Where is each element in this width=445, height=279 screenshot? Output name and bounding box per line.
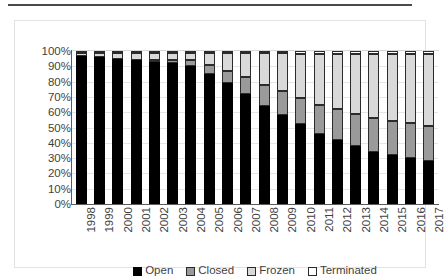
segment-closed-2016: [405, 123, 416, 158]
segment-open-2005: [204, 74, 215, 204]
segment-open-2002: [149, 62, 160, 204]
segment-open-2001: [131, 60, 142, 204]
legend-item-frozen[interactable]: Frozen: [247, 265, 295, 277]
segment-terminated-2014: [368, 51, 379, 54]
legend-item-terminated[interactable]: Terminated: [308, 265, 377, 277]
bar-2012: [332, 51, 343, 204]
x-axis-tick-label: 2011: [324, 207, 336, 232]
segment-open-2003: [167, 63, 178, 204]
x-axis-tick-label: 2001: [141, 207, 153, 233]
y-axis-tick-label: 30%: [48, 153, 71, 165]
x-axis-tick-label: 2008: [269, 207, 281, 233]
segment-frozen-1999: [94, 53, 105, 58]
bar-2002: [149, 51, 160, 204]
frozen-swatch-icon: [247, 267, 256, 276]
segment-closed-2005: [204, 65, 215, 74]
segment-terminated-1998: [76, 51, 87, 53]
x-axis-tick-label: 2010: [306, 207, 318, 233]
x-axis-tick-label: 2009: [287, 207, 299, 233]
x-axis-tick-label: 2015: [397, 207, 409, 233]
segment-closed-2017: [423, 126, 434, 161]
segment-frozen-2016: [405, 54, 416, 123]
segment-frozen-2015: [387, 54, 398, 121]
segment-frozen-2005: [204, 53, 215, 65]
bar-2009: [277, 51, 288, 204]
segment-frozen-2001: [131, 53, 142, 61]
segment-closed-2003: [167, 60, 178, 63]
segment-terminated-2000: [112, 51, 123, 53]
segment-closed-2011: [314, 105, 325, 134]
segment-terminated-2017: [423, 51, 434, 54]
bar-1999: [94, 51, 105, 204]
bar-2017: [423, 51, 434, 204]
segment-frozen-2002: [149, 53, 160, 61]
bar-2015: [387, 51, 398, 204]
segment-terminated-2010: [295, 51, 306, 54]
x-axis-tick-label: 2014: [379, 207, 391, 233]
segment-open-2009: [277, 115, 288, 204]
bar-2016: [405, 51, 416, 204]
segment-frozen-2017: [423, 54, 434, 126]
segment-frozen-2011: [314, 54, 325, 104]
legend-item-closed[interactable]: Closed: [186, 265, 234, 277]
open-swatch-icon: [133, 267, 142, 276]
segment-open-2004: [185, 66, 196, 204]
x-axis-tick-label: 2006: [233, 207, 245, 233]
segment-frozen-2007: [240, 53, 251, 77]
segment-open-2008: [259, 106, 270, 204]
segment-open-1998: [76, 56, 87, 204]
segment-terminated-2006: [222, 51, 233, 53]
y-axis-tick-label: 90%: [48, 61, 71, 73]
y-axis-labels: 100%90%80%70%60%50%40%30%20%10%0%: [29, 43, 71, 213]
segment-terminated-1999: [94, 51, 105, 53]
segment-closed-2010: [295, 98, 306, 124]
segment-closed-2008: [259, 85, 270, 106]
x-axis-tick-label: 2003: [178, 207, 190, 233]
bar-2008: [259, 51, 270, 204]
bar-2011: [314, 51, 325, 204]
segment-frozen-1998: [76, 53, 87, 56]
segment-closed-2006: [222, 71, 233, 83]
bar-2000: [112, 51, 123, 204]
x-axis-tick-label: 2005: [214, 207, 226, 233]
segment-terminated-2012: [332, 51, 343, 54]
segment-frozen-2006: [222, 53, 233, 71]
bar-2003: [167, 51, 178, 204]
x-axis-tick-label: 2002: [159, 207, 171, 233]
segment-closed-2004: [185, 60, 196, 66]
y-axis-tick-label: 0%: [54, 199, 71, 211]
bar-2006: [222, 51, 233, 204]
x-axis-labels: 1998199920002001200220032004200520062007…: [72, 207, 438, 259]
legend-label: Closed: [198, 265, 234, 277]
x-axis-tick-label: 2004: [196, 207, 208, 233]
segment-open-2007: [240, 94, 251, 204]
segment-frozen-2010: [295, 54, 306, 98]
bar-2014: [368, 51, 379, 204]
x-axis-tick-label: 1998: [86, 207, 98, 233]
bar-2005: [204, 51, 215, 204]
bar-2004: [185, 51, 196, 204]
segment-frozen-2004: [185, 53, 196, 61]
bar-2013: [350, 51, 361, 204]
segment-terminated-2007: [240, 51, 251, 53]
segment-frozen-2003: [167, 53, 178, 61]
x-axis-tick-label: 2007: [251, 207, 263, 233]
y-axis-tick-label: 70%: [48, 92, 71, 104]
chart-frame: 100%90%80%70%60%50%40%30%20%10%0% 199819…: [14, 20, 426, 268]
x-axis-line: [71, 204, 439, 205]
legend-item-open[interactable]: Open: [133, 265, 173, 277]
segment-terminated-2009: [277, 51, 288, 53]
segment-terminated-2013: [350, 51, 361, 54]
segment-closed-2013: [350, 114, 361, 146]
segment-open-2013: [350, 146, 361, 204]
segment-frozen-2008: [259, 53, 270, 85]
bar-series-group: [72, 51, 438, 204]
y-axis-tick-label: 10%: [48, 184, 71, 196]
x-axis-tick-label: 2017: [434, 207, 445, 233]
segment-closed-2009: [277, 91, 288, 115]
legend-label: Terminated: [320, 265, 377, 277]
segment-frozen-2013: [350, 54, 361, 114]
chart-legend: OpenClosedFrozenTerminated: [72, 263, 438, 279]
y-axis-tick-label: 80%: [48, 77, 71, 89]
